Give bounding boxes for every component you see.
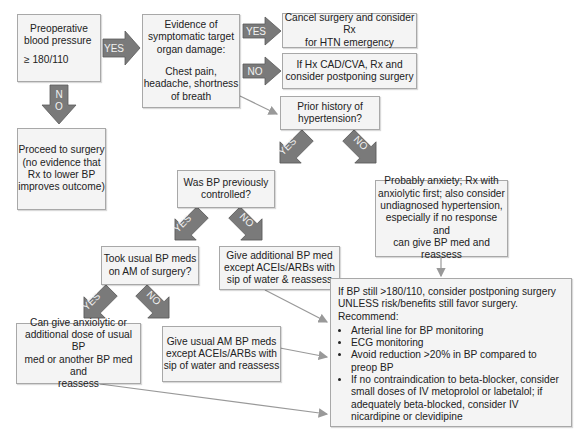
svg-text:YES: YES — [104, 43, 124, 54]
proceed-line1: Proceed to surgery — [18, 144, 105, 156]
preop-threshold: ≥ 180/110 — [24, 54, 94, 66]
cangive-line1: Can give anxiolytic or — [17, 317, 140, 329]
recommendation-item: Arterial line for BP monitoring — [351, 325, 565, 337]
recommendation-item: ECG monitoring — [351, 337, 565, 349]
controlled-line1: Was BP previously — [178, 177, 274, 189]
arrow-prior-no: NO — [338, 125, 387, 174]
cangive-line3: med or another BP med and — [17, 354, 140, 379]
cangive-line4: reassess — [17, 378, 140, 390]
final-line3: Recommend: — [338, 311, 565, 323]
anxiety-line2: anxiolytic first; also consider — [376, 188, 507, 200]
proceed-line3: Rx to lower BP — [18, 169, 105, 181]
connector-usualam-to-final — [280, 348, 327, 357]
svg-text:O: O — [55, 101, 63, 112]
svg-text:N: N — [55, 89, 62, 100]
node-probably-anxiety: Probably anxiety; Rx with anxiolytic fir… — [375, 180, 508, 257]
controlled-line2: controlled? — [178, 189, 274, 201]
node-give-additional: Give additional BP med except ACEIs/ARBs… — [219, 246, 340, 290]
node-can-give-anxiolytic: Can give anxiolytic or additional dose o… — [16, 323, 141, 384]
evidence-line6: of breath — [143, 91, 239, 103]
arrow-controlled-no: NO — [224, 202, 273, 251]
evidence-line4: Chest pain, — [143, 66, 239, 78]
prior-line2: hypertension? — [281, 113, 379, 125]
recommendation-item: Avoid reduction >20% in BP compared to p… — [351, 349, 565, 374]
arrow-preop-no: N O — [42, 85, 76, 124]
usualam-line1: Give usual AM BP meds — [163, 336, 280, 348]
hx-line2: consider postponing surgery — [283, 71, 416, 83]
anxiety-line5: can give BP med and reassess — [376, 237, 507, 262]
node-hx-cad: If Hx CAD/CVA, Rx and consider postponin… — [282, 53, 417, 89]
hx-line1: If Hx CAD/CVA, Rx and — [283, 59, 416, 71]
evidence-line1: Evidence of — [143, 19, 239, 31]
proceed-line2: (no evidence that — [18, 157, 105, 169]
anxiety-line1: Probably anxiety; Rx with — [376, 175, 507, 187]
cancel-line1: Cancel surgery and consider Rx — [283, 12, 416, 37]
node-give-usual-am: Give usual AM BP meds except ACEIs/ARBs … — [162, 326, 281, 382]
recommendation-list: Arterial line for BP monitoring ECG moni… — [338, 325, 565, 423]
node-evidence: Evidence of symptomatic target organ dam… — [142, 14, 240, 108]
prior-line1: Prior history of — [281, 101, 379, 113]
evidence-line3: organ damage: — [143, 44, 239, 56]
svg-text:NO: NO — [248, 66, 263, 77]
arrow-evidence-yes: YES — [243, 17, 281, 45]
final-line1: If BP still >180/110, consider postponin… — [338, 286, 565, 298]
node-proceed-surgery: Proceed to surgery (no evidence that Rx … — [17, 128, 106, 210]
took-line1: Took usual BP meds — [102, 253, 198, 265]
connector-evidence-to-prior — [240, 96, 277, 114]
anxiety-line3: undiagnosed hypertension, — [376, 200, 507, 212]
arrow-evidence-no: NO — [243, 57, 281, 85]
node-preop-bp: Preoperative blood pressure ≥ 180/110 — [17, 14, 101, 82]
final-line2: UNLESS risk/benefits still favor surgery… — [338, 298, 565, 310]
node-cancel-surgery: Cancel surgery and consider Rx for HTN e… — [282, 13, 417, 48]
evidence-line2: symptomatic target — [143, 31, 239, 43]
svg-text:YES: YES — [246, 26, 266, 37]
additional-line3: sip of water & reassess — [220, 274, 339, 286]
node-bp-controlled: Was BP previously controlled? — [177, 170, 275, 208]
additional-line1: Give additional BP med — [220, 250, 339, 262]
node-took-usual-meds: Took usual BP meds on AM of surgery? — [101, 246, 199, 285]
arrow-prior-yes: YES — [269, 125, 318, 174]
anxiety-line4: especially if no response and — [376, 212, 507, 237]
node-prior-history: Prior history of hypertension? — [280, 96, 380, 130]
preop-line1: Preoperative — [24, 23, 94, 35]
usualam-line3: sip of water and reassess — [163, 360, 280, 372]
arrow-controlled-yes: YES — [164, 202, 213, 251]
cancel-line2: for HTN emergency — [283, 37, 416, 49]
cangive-line2: additional dose of usual BP — [17, 329, 140, 354]
usualam-line2: except ACEIs/ARBs with — [163, 348, 280, 360]
evidence-line5: headache, shortness — [143, 78, 239, 90]
additional-line2: except ACEIs/ARBs with — [220, 262, 339, 274]
arrow-preop-yes: YES — [103, 31, 140, 65]
node-final-recommendations: If BP still >180/110, consider postponin… — [330, 278, 572, 427]
connector-additional-to-final — [265, 290, 327, 322]
took-line2: on AM of surgery? — [102, 266, 198, 278]
recommendation-item: If no contraindication to beta-blocker, … — [351, 374, 565, 423]
proceed-line4: improves outcome) — [18, 181, 105, 193]
preop-line2: blood pressure — [24, 35, 94, 47]
